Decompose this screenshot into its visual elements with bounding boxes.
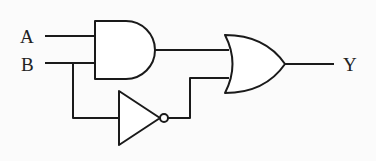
not-gate [119, 91, 160, 145]
not-gate-bubble [160, 114, 168, 122]
logic-circuit-diagram: A B Y [0, 0, 376, 161]
and-gate [95, 21, 155, 79]
wire-not-to-or [168, 78, 229, 118]
input-label-b: B [21, 55, 34, 74]
circuit-drawing [0, 0, 376, 161]
or-gate [225, 35, 285, 93]
output-label-y: Y [343, 55, 357, 74]
input-label-a: A [20, 27, 34, 46]
